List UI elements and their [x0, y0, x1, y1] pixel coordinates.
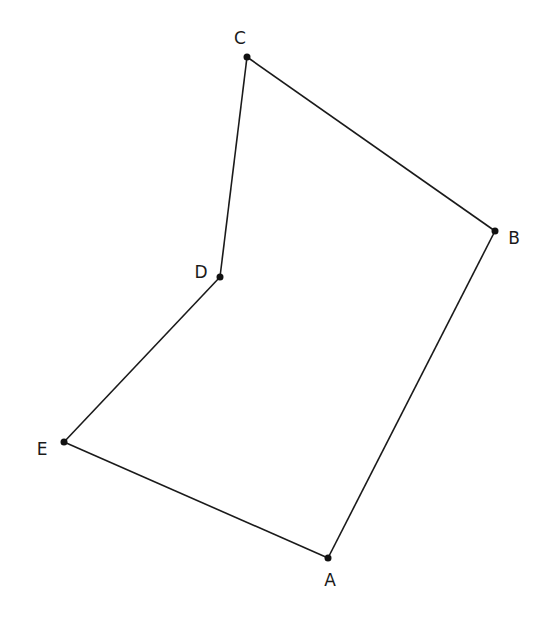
vertex-label-e: E: [37, 439, 48, 459]
vertex-c: [244, 54, 251, 61]
vertex-b: [492, 228, 499, 235]
edge-ab: [328, 231, 495, 558]
polygon-vertices: [61, 54, 499, 562]
vertex-a: [325, 555, 332, 562]
vertex-e: [61, 439, 68, 446]
vertex-label-b: B: [508, 228, 520, 248]
edge-ea: [64, 442, 328, 558]
polygon-edges: [64, 57, 495, 558]
vertex-label-a: A: [324, 570, 336, 590]
edge-bc: [247, 57, 495, 231]
vertex-label-c: C: [234, 28, 246, 48]
vertex-d: [217, 274, 224, 281]
edge-cd: [220, 57, 247, 277]
polygon-diagram: A B C D E: [0, 0, 547, 624]
vertex-labels: A B C D E: [37, 28, 520, 590]
vertex-label-d: D: [194, 262, 207, 282]
edge-de: [64, 277, 220, 442]
